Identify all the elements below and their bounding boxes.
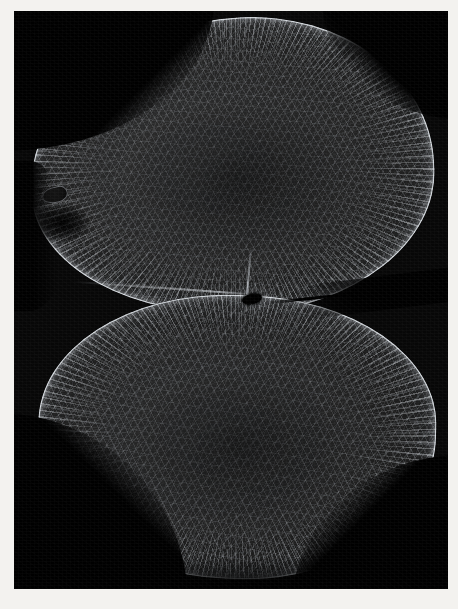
radial-fibers-lower-inner [34,290,439,584]
core-shade-lower [115,360,358,531]
pial-rim-upper [23,11,442,324]
tissue-specimen [14,11,448,589]
radial-fibers-lower [34,290,439,584]
radial-fibers-upper [23,11,442,324]
lobe-upper [23,11,442,324]
grey-matter-texture-secondary [23,11,442,324]
pial-rim-lower [34,290,439,584]
grey-matter-texture-lower-secondary [34,290,439,584]
slide-mount [0,0,458,609]
core-shade-upper [115,89,358,267]
lobe-lower [34,290,439,584]
micrograph-field [14,11,448,589]
grey-matter-texture-lower [34,290,439,584]
grey-matter-texture [23,11,442,324]
radial-fibers-upper-inner [23,11,442,324]
